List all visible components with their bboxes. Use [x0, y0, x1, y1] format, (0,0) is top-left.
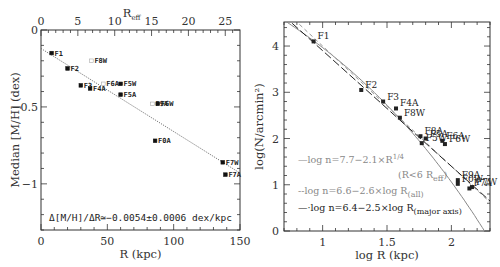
top-axis-title: Reff [123, 6, 142, 22]
y-tick-label: 0 [31, 24, 38, 37]
data-point [224, 173, 228, 177]
data-point [119, 82, 123, 86]
data-point [398, 116, 402, 120]
top-x-tick-label: 25 [218, 15, 232, 28]
data-point [420, 141, 424, 145]
gradient-annotation: Δ[M/H]/ΔR≃−0.0054±0.0006 dex/kpc [49, 212, 232, 223]
point-label: F5W [426, 133, 448, 143]
data-point [50, 51, 54, 55]
legend-entry: (R<6 Reff) [398, 169, 447, 183]
data-point [456, 182, 460, 186]
data-point [151, 102, 155, 106]
data-point [312, 39, 316, 43]
x-axis-title: R (kpc) [119, 247, 161, 261]
data-point [394, 106, 398, 110]
point-label: F5W [124, 80, 137, 88]
y-tick-label: 4 [272, 40, 279, 53]
legend-entry: —·log n=6.4−2.5×log R(major axis) [298, 202, 462, 216]
data-point [359, 88, 363, 92]
point-label: F6W [449, 134, 471, 144]
point-label: F7W [226, 159, 239, 167]
data-point [79, 84, 83, 88]
y-tick-label: 0 [272, 225, 279, 238]
point-label: F8W [94, 57, 107, 65]
top-x-tick-label: 20 [181, 15, 195, 28]
y-axis-title: Median [M/H] (dex) [8, 72, 22, 187]
fit-major-axis-line [284, 16, 490, 201]
x-tick-label: 100 [163, 235, 184, 248]
legend-entry: —log n=7.7−2.1×R1/4 [298, 153, 405, 165]
point-label: F4A [93, 85, 106, 93]
right-plot-frame [284, 22, 490, 231]
data-point [470, 185, 474, 189]
y-tick-label: 1 [272, 179, 279, 192]
y-tick-label: 2 [272, 133, 279, 146]
point-label: F6W [161, 100, 174, 108]
data-point [153, 139, 157, 143]
point-label: F1 [318, 31, 330, 41]
top-x-tick-label: 5 [74, 15, 81, 28]
data-point [381, 100, 385, 104]
data-point [418, 134, 422, 138]
y-tick-label: −1 [22, 178, 38, 191]
point-label: F2 [71, 65, 79, 73]
point-label: F1 [55, 50, 63, 58]
x-tick-label: 2 [448, 236, 455, 249]
data-point [90, 59, 94, 63]
point-label: F3 [387, 92, 399, 102]
x-axis-title: log R (kpc) [355, 248, 419, 262]
data-point [456, 178, 460, 182]
data-point [119, 93, 123, 97]
point-label: F0A [158, 137, 171, 145]
top-x-tick-label: 0 [38, 15, 45, 28]
data-point [443, 142, 447, 146]
left-plot: 05010015005101520250−0.5−1R (kpc)ReffMed… [8, 6, 251, 261]
left-plot-frame [41, 30, 240, 230]
point-label: F2 [365, 80, 377, 90]
figure: 05010015005101520250−0.5−1R (kpc)ReffMed… [0, 0, 500, 267]
data-point [66, 67, 70, 71]
point-label: F8W [404, 108, 426, 118]
data-point [88, 87, 92, 91]
data-point [102, 82, 106, 86]
data-point [156, 102, 160, 106]
point-label: F5A [124, 91, 137, 99]
point-label: F7W [476, 177, 498, 187]
data-point [221, 161, 225, 165]
point-label: F6A [106, 80, 119, 88]
x-tick-label: 150 [230, 235, 251, 248]
x-tick-label: 50 [100, 235, 114, 248]
legend-entry: --log n=6.6−2.6×log R(all) [298, 185, 424, 199]
x-tick-label: 0 [38, 235, 45, 248]
top-x-tick-label: 10 [108, 15, 122, 28]
top-x-tick-label: 15 [145, 15, 159, 28]
right-plot: 11.5201234log R (kpc)log(N/arcmin²)F1F2F… [252, 10, 498, 262]
x-tick-label: 1 [319, 236, 326, 249]
y-axis-title: log(N/arcmin²) [252, 83, 266, 169]
y-tick-label: 3 [272, 86, 279, 99]
point-label: F7A [228, 171, 241, 179]
